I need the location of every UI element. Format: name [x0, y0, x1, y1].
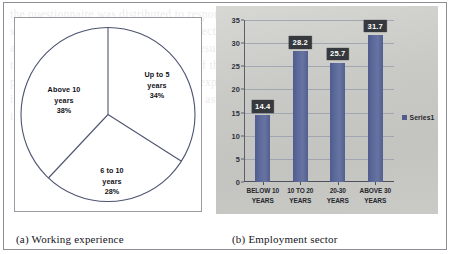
x-label-line1: 10 TO 20 — [282, 186, 320, 196]
x-label-line2: YEARS — [319, 196, 357, 206]
bar-value-label: 31.7 — [364, 20, 386, 32]
bar-below-10-years[interactable] — [255, 115, 270, 182]
bar-slot: 14.4 — [244, 20, 282, 182]
bar-20-30-years[interactable] — [330, 63, 345, 182]
y-axis-tick-label: 0 — [236, 178, 240, 187]
x-label-line2: YEARS — [282, 196, 320, 206]
x-axis-labels: BELOW 10 YEARS 10 TO 20 YEARS 20-30 YEAR… — [244, 186, 394, 205]
x-tick-mark — [375, 182, 376, 185]
x-label-line2: YEARS — [244, 196, 282, 206]
pie-label-line2: years — [31, 96, 97, 107]
x-label-line2: YEARS — [357, 196, 395, 206]
pie-chart-container: Up to 5 years 34% Above 10 years 38% 6 t… — [14, 17, 202, 212]
panel-b-caption: (b) Employment sector — [232, 233, 338, 245]
bar-slot: 28.2 — [282, 20, 320, 182]
legend-label: Series1 — [410, 114, 435, 121]
pie-label-line1: 6 to 10 — [81, 166, 143, 177]
y-axis-tick-label: 35 — [231, 16, 240, 25]
panel-employment-sector: 35 30 25 20 15 10 5 0 14.4 28.2 — [216, 0, 453, 254]
pie-label-line1: Up to 5 — [127, 70, 187, 81]
legend-swatch-icon — [402, 115, 407, 120]
bar-slot: 31.7 — [357, 20, 395, 182]
bar-chart-plot-area: 35 30 25 20 15 10 5 0 14.4 28.2 — [244, 20, 394, 182]
y-axis-tick-label: 15 — [231, 108, 240, 117]
pie-label-value: 28% — [81, 187, 143, 198]
pie-label-value: 38% — [31, 106, 97, 117]
x-axis-label-below-10-years: BELOW 10 YEARS — [244, 186, 282, 205]
bar-above-30-years[interactable] — [368, 35, 383, 182]
x-tick-mark — [263, 182, 264, 185]
panel-working-experience: Up to 5 years 34% Above 10 years 38% 6 t… — [0, 0, 216, 254]
bar-chart-container: 35 30 25 20 15 10 5 0 14.4 28.2 — [216, 6, 438, 214]
chart-legend[interactable]: Series1 — [402, 114, 434, 121]
bar-value-label: 14.4 — [252, 100, 274, 112]
pie-slice-label-up-to-5: Up to 5 years 34% — [127, 70, 187, 102]
bar-value-label: 28.2 — [289, 36, 311, 48]
y-axis-tick-label: 5 — [236, 154, 240, 163]
x-label-line1: 20-30 — [319, 186, 357, 196]
y-axis-tick-label: 10 — [231, 131, 240, 140]
bar-series: 14.4 28.2 25.7 31 — [244, 20, 394, 182]
figure-panels: Up to 5 years 34% Above 10 years 38% 6 t… — [0, 0, 453, 254]
pie-slice-label-6-to-10: 6 to 10 years 28% — [81, 166, 143, 198]
y-axis-tick-label: 25 — [231, 62, 240, 71]
x-label-line1: ABOVE 30 — [357, 186, 395, 196]
pie-label-line2: years — [81, 177, 143, 188]
x-tick-mark — [338, 182, 339, 185]
pie-label-line2: years — [127, 81, 187, 92]
bar-slot: 25.7 — [319, 20, 357, 182]
x-axis-label-above-30-years: ABOVE 30 YEARS — [357, 186, 395, 205]
pie-slice-label-above-10: Above 10 years 38% — [31, 85, 97, 117]
y-axis-tick-label: 20 — [231, 85, 240, 94]
bar-10-to-20-years[interactable] — [293, 51, 308, 182]
panel-a-caption: (a) Working experience — [16, 233, 124, 245]
x-label-line1: BELOW 10 — [244, 186, 282, 196]
x-axis-label-10-to-20-years: 10 TO 20 YEARS — [282, 186, 320, 205]
bar-value-label: 25.7 — [327, 48, 349, 60]
y-axis-tick-label: 30 — [231, 39, 240, 48]
x-tick-mark — [300, 182, 301, 185]
x-axis-label-20-30-years: 20-30 YEARS — [319, 186, 357, 205]
pie-label-line1: Above 10 — [31, 85, 97, 96]
pie-label-value: 34% — [127, 91, 187, 102]
